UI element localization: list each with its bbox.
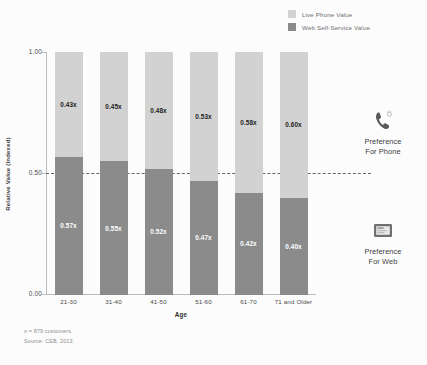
x-tick-label: 41-50	[136, 298, 181, 305]
bar-value-label: 0.53x	[195, 113, 212, 120]
bar-value-label: 0.42x	[240, 240, 257, 247]
annotation-label-line2: For Web	[344, 257, 422, 267]
bar-segment-web-self-service[interactable]: 0.57x	[55, 157, 83, 296]
bar-group: 0.43x 0.57x 0.45x 0.55x 0.48x 0.	[46, 52, 316, 295]
bar-segment-web-self-service[interactable]: 0.47x	[190, 181, 218, 295]
bar-value-label: 0.58x	[240, 119, 257, 126]
annotation-label-line2: For Phone	[344, 147, 422, 157]
bar-segment-live-phone[interactable]: 0.43x	[55, 52, 83, 156]
legend-item-label: Web Self-Service Value	[302, 24, 370, 31]
bar-value-label: 0.43x	[60, 101, 77, 108]
bar-value-label: 0.40x	[285, 243, 302, 250]
chart-footnotes: n = 879 customers. Source: CEB, 2013.	[24, 328, 74, 348]
bar-value-label: 0.48x	[150, 107, 167, 114]
x-tick-label: 31-40	[91, 298, 136, 305]
y-tick-label-000: 0.00	[16, 290, 42, 297]
bar-column-71-and-older[interactable]: 0.60x 0.40x	[280, 52, 308, 295]
phone-handset-icon	[344, 108, 422, 134]
x-axis-title: Age	[46, 311, 316, 318]
legend-item-live-phone-value: Live Phone Value	[288, 10, 423, 18]
bar-value-label: 0.60x	[285, 121, 302, 128]
bar-column-51-60[interactable]: 0.53x 0.47x	[190, 52, 218, 295]
bar-segment-live-phone[interactable]: 0.58x	[235, 52, 263, 193]
bar-segment-web-self-service[interactable]: 0.55x	[100, 161, 128, 295]
footnote-source: Source: CEB, 2013.	[24, 338, 74, 344]
y-tick-label-100: 1.00	[16, 48, 42, 55]
bar-segment-live-phone[interactable]: 0.48x	[145, 52, 173, 169]
bar-value-label: 0.52x	[150, 228, 167, 235]
x-tick-label: 21-30	[46, 298, 91, 305]
annotation-label-line1: Preference	[344, 247, 422, 257]
bar-value-label: 0.57x	[60, 222, 77, 229]
legend-swatch-icon	[288, 10, 296, 18]
y-tick-label-050: 0.50	[16, 169, 42, 176]
bar-segment-live-phone[interactable]: 0.60x	[280, 52, 308, 198]
bar-segment-web-self-service[interactable]: 0.52x	[145, 169, 173, 295]
y-axis-title: Relative Value (Indexed)	[5, 137, 11, 211]
chart-root: Live Phone Value Web Self-Service Value …	[0, 0, 427, 365]
legend-swatch-icon	[288, 23, 296, 31]
annotation-preference-for-phone: Preference For Phone	[344, 108, 422, 157]
x-axis-tick-labels: 21-30 31-40 41-50 51-60 61-70 71 and Old…	[46, 298, 316, 305]
computer-monitor-icon	[344, 218, 422, 244]
bar-column-21-30[interactable]: 0.43x 0.57x	[55, 52, 83, 295]
bar-segment-live-phone[interactable]: 0.45x	[100, 52, 128, 161]
x-tick-label: 61-70	[226, 298, 271, 305]
x-tick-label: 51-60	[181, 298, 226, 305]
bar-segment-live-phone[interactable]: 0.53x	[190, 52, 218, 181]
bar-value-label: 0.47x	[195, 234, 212, 241]
bar-segment-web-self-service[interactable]: 0.40x	[280, 198, 308, 295]
footnote-sample-size: n = 879 customers.	[24, 328, 74, 334]
bar-column-31-40[interactable]: 0.45x 0.55x	[100, 52, 128, 295]
legend-item-label: Live Phone Value	[302, 11, 352, 18]
bar-column-41-50[interactable]: 0.48x 0.52x	[145, 52, 173, 295]
plot-area: 1.00 0.50 0.00 Relative Value (Indexed) …	[46, 52, 316, 295]
x-tick-label: 71 and Older	[271, 298, 316, 305]
chart-legend: Live Phone Value Web Self-Service Value	[288, 10, 423, 36]
annotation-label-line1: Preference	[344, 137, 422, 147]
bar-segment-web-self-service[interactable]: 0.42x	[235, 193, 263, 295]
legend-item-web-self-service-value: Web Self-Service Value	[288, 23, 423, 31]
annotation-preference-for-web: Preference For Web	[344, 218, 422, 267]
bar-value-label: 0.45x	[105, 103, 122, 110]
bar-value-label: 0.55x	[105, 225, 122, 232]
bar-column-61-70[interactable]: 0.58x 0.42x	[235, 52, 263, 295]
